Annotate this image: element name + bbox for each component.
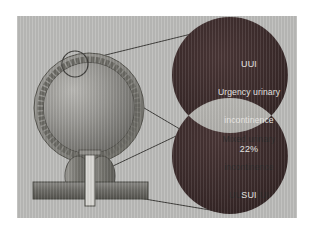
urethra-channel — [85, 152, 95, 206]
uui-name-l1: Urgency urinary — [193, 88, 297, 98]
sui-abbr: SUI — [193, 190, 297, 200]
trigone-plate — [79, 150, 101, 155]
mixed-name-l1: Mixed urinary — [194, 135, 297, 145]
bladder-lumen — [44, 63, 134, 153]
figure-root: UUI Urgency urinary incontinence 22% Mix… — [0, 0, 315, 232]
uui-abbr: UUI — [193, 59, 297, 69]
figure-panel: UUI Urgency urinary incontinence 22% Mix… — [17, 16, 297, 218]
bladder-neck-complex — [33, 150, 148, 206]
sui-label-group: SUI Stress urinary incontinence 49% — [193, 172, 297, 218]
bladder-illustration — [33, 51, 148, 206]
